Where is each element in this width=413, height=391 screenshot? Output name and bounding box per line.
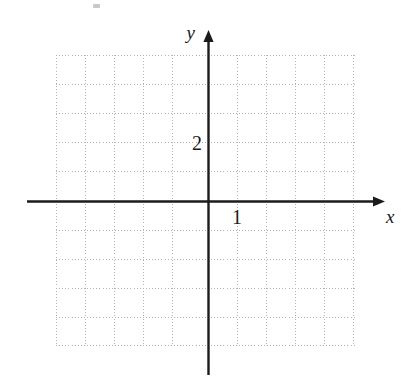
coordinate-plane-svg: x y 1 2: [0, 0, 413, 391]
x-axis-arrowhead-icon: [373, 196, 385, 206]
scan-artifact-speck: [93, 4, 100, 8]
y-axis-tick-label-2: 2: [192, 132, 202, 154]
vertical-gridlines-group: [57, 55, 354, 345]
y-axis-label: y: [185, 22, 196, 43]
coordinate-grid-figure: x y 1 2: [0, 0, 413, 391]
x-axis-label: x: [385, 206, 395, 227]
y-axis-arrowhead-icon: [203, 30, 213, 42]
labels-group: x y 1 2: [185, 22, 395, 228]
x-axis-tick-label-1: 1: [232, 206, 242, 228]
axes-group: [27, 30, 385, 375]
